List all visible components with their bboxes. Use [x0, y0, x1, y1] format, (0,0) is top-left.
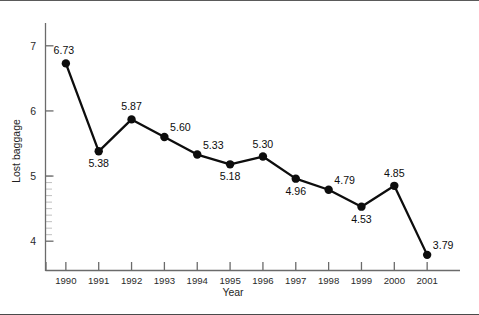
data-point-marker — [193, 150, 201, 158]
x-axis-tick-labels: 1990199119921993199419951996199719981999… — [55, 275, 438, 286]
x-tick-label: 2000 — [384, 275, 405, 286]
data-point-marker — [226, 160, 234, 168]
data-point-labels: 6.735.385.875.605.335.185.304.964.794.53… — [54, 44, 454, 250]
data-point-marker — [62, 59, 70, 67]
y-axis-tick-labels: 7654 — [30, 40, 36, 247]
data-point-label: 5.87 — [121, 100, 142, 112]
data-point-marker — [259, 152, 267, 160]
x-tick-label: 1991 — [88, 275, 109, 286]
data-point-label: 4.96 — [285, 185, 306, 197]
y-axis-title: Lost baggage — [10, 119, 22, 183]
x-axis-title: Year — [222, 286, 244, 298]
data-point-marker — [95, 147, 103, 155]
data-point-label: 5.18 — [220, 170, 241, 182]
x-tick-label: 1998 — [318, 275, 339, 286]
x-tick-label: 1997 — [285, 275, 306, 286]
x-tick-label: 1993 — [154, 275, 175, 286]
data-point-label: 5.60 — [170, 121, 191, 133]
y-tick-label: 4 — [30, 235, 36, 247]
data-point-label: 5.33 — [203, 139, 224, 151]
x-tick-label: 1994 — [187, 275, 209, 286]
y-tick-label: 5 — [30, 170, 36, 182]
x-axis-ticks — [46, 262, 427, 271]
data-point-label: 5.38 — [88, 157, 109, 169]
data-point-label: 5.30 — [253, 138, 274, 150]
x-tick-label: 1995 — [219, 275, 240, 286]
data-point-label: 3.79 — [433, 239, 454, 251]
data-point-marker — [357, 202, 365, 210]
x-tick-label: 1996 — [252, 275, 273, 286]
data-point-marker — [390, 182, 398, 190]
data-point-marker — [324, 186, 332, 194]
data-point-label: 4.79 — [334, 174, 355, 186]
data-point-label: 4.53 — [351, 213, 372, 225]
data-point-marker — [292, 174, 300, 182]
data-point-marker — [127, 115, 135, 123]
data-point-marker — [160, 133, 168, 141]
y-axis-ticks — [46, 46, 54, 241]
y-tick-label: 6 — [30, 105, 36, 117]
x-tick-label: 2001 — [416, 275, 437, 286]
y-axis-minor-ticks — [46, 176, 53, 235]
y-tick-label: 7 — [30, 40, 36, 52]
data-point-label: 6.73 — [54, 44, 75, 56]
data-point-label: 4.85 — [384, 167, 405, 179]
data-series-line — [66, 63, 427, 254]
x-tick-label: 1990 — [55, 275, 76, 286]
data-point-marker — [423, 251, 431, 259]
x-tick-label: 1992 — [121, 275, 142, 286]
line-chart: 6.735.385.875.605.335.185.304.964.794.53… — [0, 1, 479, 315]
data-point-markers — [62, 59, 432, 259]
figure-frame: 6.735.385.875.605.335.185.304.964.794.53… — [0, 0, 479, 315]
x-tick-label: 1999 — [351, 275, 372, 286]
